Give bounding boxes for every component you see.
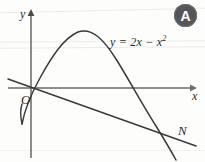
equation-base: y = 2x − x	[110, 35, 162, 49]
y-axis-arrow-icon	[28, 9, 35, 16]
x-axis-label: x	[192, 90, 197, 102]
equation-exponent: 2	[162, 34, 166, 43]
coordinate-plot	[0, 0, 205, 162]
parabola-curve	[22, 31, 176, 160]
origin-label: O	[21, 93, 30, 106]
parabola-left-tail	[21, 104, 23, 124]
y-axis-label: y	[20, 8, 25, 20]
badge-letter: A	[180, 9, 190, 23]
equation-label: y = 2x − x2	[110, 35, 166, 48]
math-figure: y x O N y = 2x − x2 A	[0, 0, 205, 162]
straight-line	[8, 79, 196, 146]
answer-badge[interactable]: A	[174, 4, 197, 27]
point-n-label: N	[178, 124, 187, 137]
